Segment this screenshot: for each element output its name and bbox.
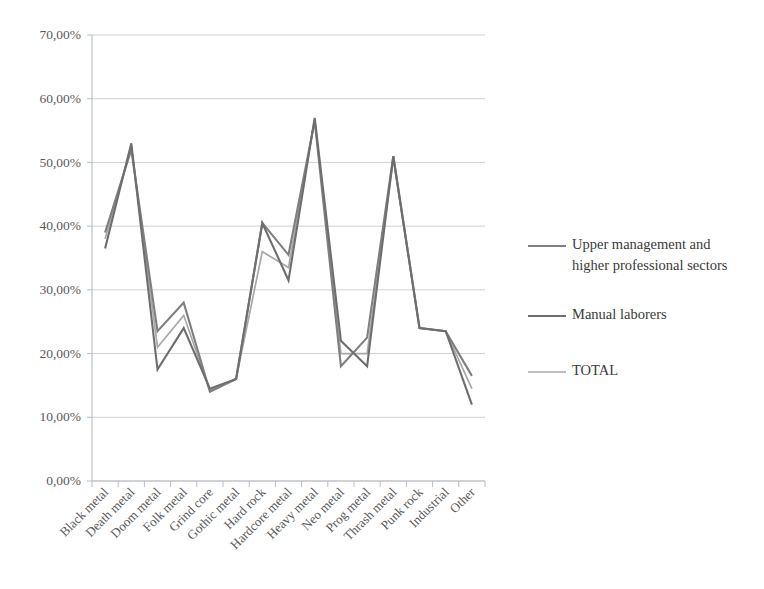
- y-tick-label: 30,00%: [39, 282, 81, 297]
- y-tick-label: 20,00%: [39, 346, 81, 361]
- y-tick-label: 50,00%: [39, 155, 81, 170]
- series-line: [105, 118, 472, 405]
- y-tick-label: 10,00%: [39, 409, 81, 424]
- legend-label: Manual laborers: [572, 306, 667, 322]
- series-line: [105, 121, 472, 392]
- y-axis: 0,00%10,00%20,00%30,00%40,00%50,00%60,00…: [39, 27, 92, 488]
- legend-label-continued: higher professional sectors: [572, 257, 728, 273]
- y-tick-label: 60,00%: [39, 91, 81, 106]
- chart-legend: Upper management andhigher professional …: [528, 236, 728, 378]
- chart-container: 0,00%10,00%20,00%30,00%40,00%50,00%60,00…: [0, 0, 764, 589]
- y-tick-label: 0,00%: [46, 473, 81, 488]
- y-tick-label: 40,00%: [39, 218, 81, 233]
- data-series: [105, 118, 472, 405]
- legend-label: TOTAL: [572, 362, 618, 378]
- line-chart: 0,00%10,00%20,00%30,00%40,00%50,00%60,00…: [0, 0, 764, 589]
- y-tick-label: 70,00%: [39, 27, 81, 42]
- x-tick-labels: Black metalDeath metalDoom metalFolk met…: [56, 484, 478, 552]
- gridlines: [92, 35, 485, 481]
- x-tick-label: Other: [446, 484, 478, 516]
- legend-label: Upper management and: [572, 236, 711, 252]
